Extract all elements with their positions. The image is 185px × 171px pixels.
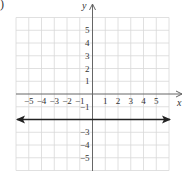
x-tick-label: 1 [103,96,108,106]
x-axis-label: x [176,97,182,108]
x-tick-label: −2 [62,96,72,106]
x-tick-label: 4 [141,96,146,106]
y-tick-label: −1 [80,102,90,112]
x-tick-label: −3 [49,96,59,106]
x-tick-label: −5 [24,96,34,106]
y-tick-label: 1 [85,76,90,86]
y-tick-label: −4 [80,140,90,150]
x-tick-label: −4 [37,96,47,106]
y-tick-label: −5 [80,153,90,163]
y-tick-label: 2 [85,64,90,74]
y-tick-label: −3 [80,127,90,137]
y-axis-label: y [81,0,87,11]
x-tick-label: 3 [129,96,134,106]
x-tick-label: 5 [154,96,159,106]
y-tick-label: 5 [85,25,90,35]
y-tick-label: 4 [85,38,90,48]
coordinate-plane: xy −5−4−3−2−11234554321−1−3−4−5 [0,0,185,171]
x-tick-label: 2 [116,96,121,106]
y-tick-label: 3 [85,51,90,61]
